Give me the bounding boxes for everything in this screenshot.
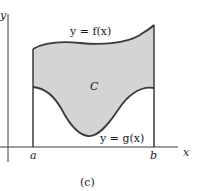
region-label: C bbox=[90, 80, 99, 93]
area-between-curves-figure: y y = f(x) C y = g(x) a b x (c) bbox=[0, 0, 198, 191]
left-bound-label: a bbox=[30, 149, 37, 162]
lower-curve-label: y = g(x) bbox=[99, 132, 144, 145]
upper-curve-label: y = f(x) bbox=[69, 25, 111, 38]
figure-caption: (c) bbox=[80, 176, 95, 189]
y-axis-label: y bbox=[0, 9, 7, 22]
diagram-canvas: y y = f(x) C y = g(x) a b x (c) bbox=[0, 0, 198, 191]
x-axis-label: x bbox=[183, 146, 190, 159]
right-bound-label: b bbox=[150, 149, 157, 162]
